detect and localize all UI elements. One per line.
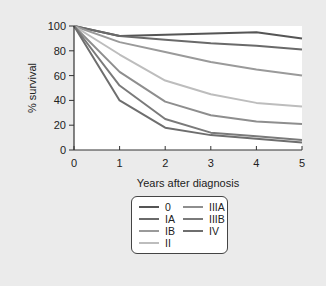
y-tick-label: 80 <box>54 45 66 57</box>
legend-swatch-ia <box>139 218 159 220</box>
legend-item-ii: II <box>139 237 171 249</box>
legend-label: IB <box>165 225 175 237</box>
y-tick-label: 40 <box>54 94 66 106</box>
legend-swatch-ii <box>139 242 159 244</box>
y-tick-label: 20 <box>54 119 66 131</box>
legend-item-iiib: IIIB <box>183 213 225 225</box>
x-tick-label: 1 <box>117 157 123 169</box>
legend-swatch-iiib <box>183 218 203 220</box>
legend-swatch-iv <box>183 230 203 232</box>
y-tick-label: 100 <box>48 20 66 32</box>
legend-label: 0 <box>165 201 171 213</box>
legend-item-iiia: IIIA <box>183 201 225 213</box>
legend-label: IA <box>165 213 175 225</box>
x-tick-label: 5 <box>299 157 305 169</box>
legend-label: IV <box>209 225 219 237</box>
legend-swatch-ib <box>139 230 159 232</box>
legend-swatch-0 <box>139 206 159 208</box>
legend-swatch-iiia <box>183 206 203 208</box>
legend-label: IIIA <box>209 201 225 213</box>
x-tick-label: 4 <box>253 157 259 169</box>
x-tick-label: 2 <box>162 157 168 169</box>
y-tick-label: 0 <box>60 144 66 156</box>
x-axis-title: Years after diagnosis <box>137 177 240 189</box>
legend-item-ib: IB <box>139 225 175 237</box>
legend-item-0: 0 <box>139 201 171 213</box>
x-tick-label: 0 <box>71 157 77 169</box>
legend-label: II <box>165 237 171 249</box>
y-axis-title: % survival <box>26 63 38 113</box>
x-tick-label: 3 <box>208 157 214 169</box>
y-ticks: 020406080100 <box>48 20 74 156</box>
legend-item-ia: IA <box>139 213 175 225</box>
legend-label: IIIB <box>209 213 225 225</box>
y-tick-label: 60 <box>54 70 66 82</box>
legend: 0 IA IB II IIIA IIIB IV <box>131 196 228 254</box>
legend-item-iv: IV <box>183 225 219 237</box>
